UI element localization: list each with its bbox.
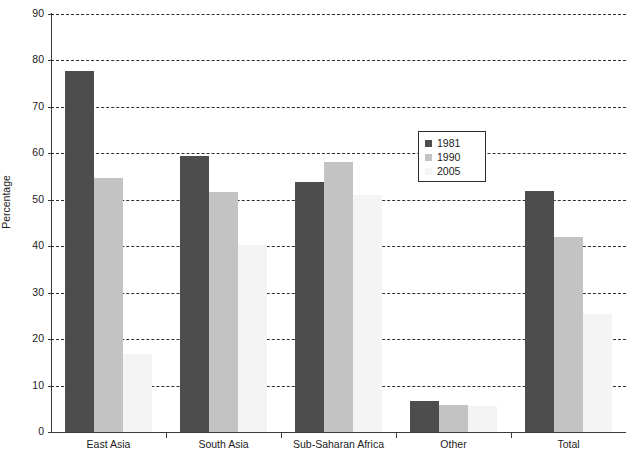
legend-item-1981: 1981 <box>425 136 485 150</box>
bar-total-1981 <box>525 191 554 432</box>
x-axis-line <box>51 432 626 433</box>
y-tick-label-10: 10 <box>0 380 44 390</box>
x-axis-label-south-asia: South Asia <box>198 438 248 450</box>
x-tick-4 <box>511 433 512 438</box>
bar-east-asia-1990 <box>94 178 123 432</box>
bar-south-asia-2005 <box>238 245 267 432</box>
y-tick-label-90: 90 <box>0 8 44 18</box>
x-axis-label-total: Total <box>557 438 579 450</box>
x-axis-label-other: Other <box>440 438 466 450</box>
gridline-70 <box>51 107 626 108</box>
legend: 198119902005 <box>418 131 486 182</box>
bar-south-asia-1981 <box>180 156 209 432</box>
x-tick-3 <box>396 433 397 438</box>
bar-sub-saharan-africa-1981 <box>295 182 324 432</box>
legend-label-2005: 2005 <box>437 166 460 177</box>
bar-sub-saharan-africa-2005 <box>353 195 382 432</box>
y-tick-label-0: 0 <box>0 426 44 436</box>
legend-label-1990: 1990 <box>437 152 460 163</box>
y-tick-label-60: 60 <box>0 147 44 157</box>
x-tick-1 <box>166 433 167 438</box>
bar-total-2005 <box>583 314 612 432</box>
y-tick-label-80: 80 <box>0 54 44 64</box>
gridline-80 <box>51 60 626 61</box>
bar-chart: Percentage 0102030405060708090 East Asia… <box>0 0 633 458</box>
legend-item-2005: 2005 <box>425 164 485 178</box>
bar-other-2005 <box>468 406 497 432</box>
bar-other-1981 <box>410 401 439 432</box>
bar-south-asia-1990 <box>209 192 238 432</box>
gridline-60 <box>51 153 626 154</box>
bar-east-asia-1981 <box>65 71 94 432</box>
bar-sub-saharan-africa-1990 <box>324 162 353 432</box>
legend-swatch-2005 <box>425 168 432 175</box>
legend-item-1990: 1990 <box>425 150 485 164</box>
bar-total-1990 <box>554 237 583 432</box>
bar-other-1990 <box>439 405 468 432</box>
y-tick-label-70: 70 <box>0 101 44 111</box>
y-tick-label-30: 30 <box>0 287 44 297</box>
legend-swatch-1990 <box>425 154 432 161</box>
legend-swatch-1981 <box>425 140 432 147</box>
x-tick-2 <box>281 433 282 438</box>
x-axis-label-east-asia: East Asia <box>87 438 131 450</box>
y-tick-label-20: 20 <box>0 333 44 343</box>
y-tick-label-50: 50 <box>0 194 44 204</box>
bar-east-asia-2005 <box>123 354 152 432</box>
legend-label-1981: 1981 <box>437 138 460 149</box>
gridline-90 <box>51 14 626 15</box>
x-axis-label-sub-saharan-africa: Sub-Saharan Africa <box>293 438 384 450</box>
y-tick-label-40: 40 <box>0 240 44 250</box>
plot-area <box>51 14 626 432</box>
